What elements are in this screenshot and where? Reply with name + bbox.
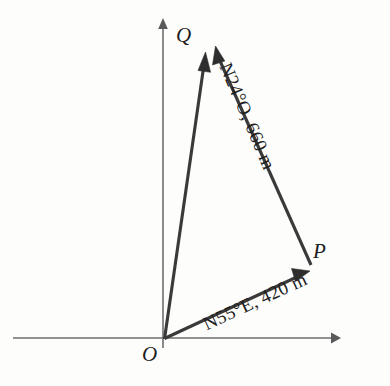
vector-oq-line — [165, 68, 204, 339]
y-axis-arrowhead-icon — [158, 18, 168, 29]
point-label-q: Q — [176, 25, 191, 46]
point-label-o: O — [142, 344, 157, 365]
x-axis-arrowhead-icon — [331, 333, 341, 344]
vector-oq-arrowhead-icon — [198, 52, 211, 72]
point-label-p: P — [313, 241, 326, 262]
y-axis — [158, 18, 168, 348]
vector-oq — [165, 52, 211, 339]
vector-pq-arrowhead-icon — [213, 46, 225, 65]
vector-diagram-figure: Q P O N24°O, 660 m N55°E, 420 m — [0, 0, 390, 386]
diagram-canvas — [0, 0, 390, 386]
